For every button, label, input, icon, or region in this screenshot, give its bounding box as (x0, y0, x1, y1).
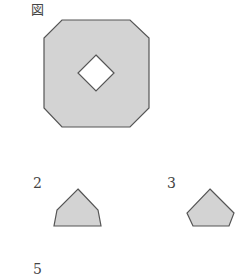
option-2-shape (54, 189, 101, 226)
figure-canvas (0, 0, 246, 275)
octagon-with-hole (44, 20, 149, 127)
option-3-shape (187, 189, 234, 226)
